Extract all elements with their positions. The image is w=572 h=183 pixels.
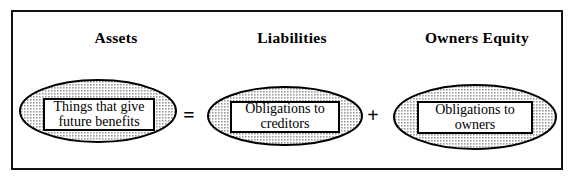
column-heading-owners-equity: Owners Equity — [392, 29, 562, 47]
plus-operator: + — [362, 104, 384, 127]
owners-equity-definition-box: Obligations to owners — [417, 101, 533, 134]
column-heading-liabilities: Liabilities — [222, 29, 362, 47]
liabilities-definition-line-2: creditors — [245, 117, 325, 132]
owners-equity-bubble-group: Obligations to owners — [392, 83, 558, 151]
owners-equity-definition-line-2: owners — [435, 118, 515, 133]
equals-operator: = — [178, 104, 200, 127]
accounting-equation-diagram: Assets Liabilities Owners Equity Things … — [0, 0, 572, 183]
column-heading-assets: Assets — [46, 29, 186, 47]
assets-definition-line-2: future benefits — [54, 115, 145, 130]
assets-bubble-group: Things that give future benefits — [18, 78, 178, 144]
assets-definition-line-1: Things that give — [54, 100, 145, 115]
owners-equity-definition-line-1: Obligations to — [435, 103, 515, 118]
liabilities-definition-line-1: Obligations to — [245, 102, 325, 117]
liabilities-bubble-group: Obligations to creditors — [206, 85, 364, 147]
assets-definition-box: Things that give future benefits — [43, 98, 155, 131]
liabilities-definition-box: Obligations to creditors — [230, 101, 340, 133]
